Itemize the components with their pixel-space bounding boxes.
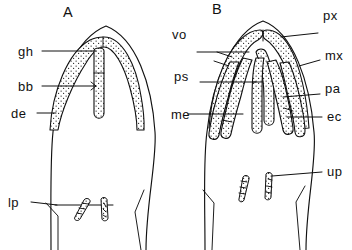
panel-a-lozenge-right <box>101 198 108 221</box>
panel-a-label-de: de <box>11 106 26 121</box>
panel-b-central-rod <box>252 58 264 133</box>
panel-b-label-vo: vo <box>172 27 187 42</box>
panel-b-label-ec: ec <box>327 109 342 124</box>
panel-b-label-pa: pa <box>325 81 341 96</box>
panel-b-letter: B <box>212 1 222 17</box>
panel-b-label-mx: mx <box>325 48 343 63</box>
panel-a-inner-rod <box>94 48 104 118</box>
anatomical-diagram: A gh bb de lp <box>0 0 352 250</box>
panel-a-label-bb: bb <box>18 79 33 94</box>
panel-a-label-lp: lp <box>8 195 19 210</box>
panel-b-label-me: me <box>171 107 190 122</box>
panel-b-label-px: px <box>323 8 338 23</box>
figure-container: A gh bb de lp <box>0 0 352 250</box>
panel-b-label-ps: ps <box>174 69 189 84</box>
panel-a-label-gh: gh <box>18 44 33 59</box>
panel-a-letter: A <box>63 4 73 20</box>
panel-b-label-up: up <box>327 164 342 179</box>
